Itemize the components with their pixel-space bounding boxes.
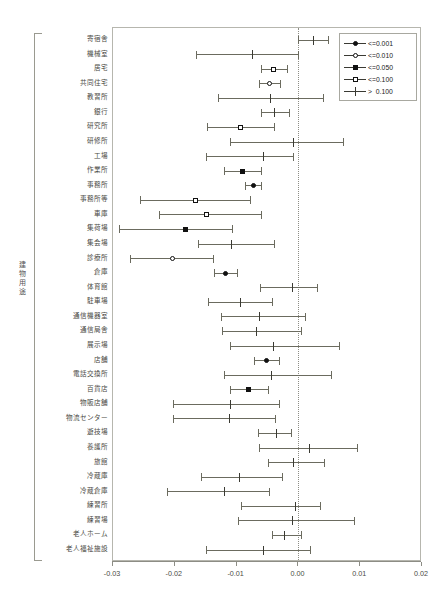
estimate-marker-filled-square <box>240 169 245 174</box>
estimate-marker-plus <box>263 546 264 555</box>
legend-entry[interactable]: <=0.050 <box>342 61 413 73</box>
category-label: 百貨店 <box>87 383 108 395</box>
estimate-marker-open-square <box>204 212 209 217</box>
category-label: 店舗 <box>94 354 108 366</box>
legend-label: > 0.100 <box>368 88 393 95</box>
forest-row <box>113 165 420 177</box>
ci-lower-cap <box>198 240 199 248</box>
estimate-marker-plus <box>252 50 253 59</box>
forest-row <box>113 180 420 192</box>
ci-upper-cap <box>279 400 280 408</box>
y-axis-label: 建物用途 <box>14 260 30 296</box>
confidence-interval-line <box>206 550 310 551</box>
category-label: 作業所 <box>87 164 108 176</box>
estimate-marker-filled-circle <box>264 358 269 363</box>
confidence-interval-line <box>167 491 269 492</box>
forest-row <box>113 107 420 119</box>
y-axis-label-char: 物 <box>14 269 30 278</box>
confidence-interval-line <box>222 331 300 332</box>
legend-entry[interactable]: <=0.010 <box>342 49 413 61</box>
category-label: 居宅 <box>94 62 108 74</box>
ci-upper-cap <box>261 211 262 219</box>
forest-row <box>113 267 420 279</box>
ci-lower-cap <box>230 342 231 350</box>
ci-upper-cap <box>287 65 288 73</box>
forest-row <box>113 529 420 541</box>
ci-lower-cap <box>230 138 231 146</box>
estimate-marker-plus <box>259 312 260 321</box>
ci-upper-cap <box>268 386 269 394</box>
legend-entry[interactable]: <=0.100 <box>342 73 413 85</box>
legend-entry[interactable]: > 0.100 <box>342 85 413 97</box>
ci-upper-cap <box>213 255 214 263</box>
x-axis: -0.03-0.02-0.010.000.010.02 <box>112 561 421 567</box>
forest-row <box>113 194 420 206</box>
legend-entry[interactable]: <=0.001 <box>342 37 413 49</box>
ci-lower-cap <box>298 36 299 44</box>
category-label: 老人ホーム <box>73 528 108 540</box>
ci-lower-cap <box>208 298 209 306</box>
ci-upper-cap <box>328 36 329 44</box>
ci-upper-cap <box>274 123 275 131</box>
forest-row <box>113 398 420 410</box>
category-label: 事務所 <box>87 179 108 191</box>
estimate-marker-plus <box>256 327 257 336</box>
estimate-marker-plus <box>284 531 285 540</box>
ci-upper-cap <box>324 459 325 467</box>
ci-upper-cap <box>275 415 276 423</box>
forest-row <box>113 442 420 454</box>
ci-lower-cap <box>261 65 262 73</box>
category-label: 物流センター <box>66 412 108 424</box>
category-label: 車庫 <box>94 208 108 220</box>
x-axis-tick-label: 0.00 <box>290 569 304 578</box>
confidence-interval-line <box>159 214 261 215</box>
ci-lower-cap <box>201 473 202 481</box>
confidence-interval-line <box>241 506 320 507</box>
estimate-marker-open-circle <box>267 81 272 86</box>
legend-symbol-plus <box>342 85 368 97</box>
ci-lower-cap <box>245 182 246 190</box>
estimate-marker-plus <box>240 298 241 307</box>
confidence-interval-line <box>258 433 291 434</box>
x-axis-tick <box>359 562 360 566</box>
forest-row <box>113 384 420 396</box>
legend-marker-plus <box>355 87 356 96</box>
confidence-interval-line <box>198 244 275 245</box>
confidence-interval-line <box>268 462 325 463</box>
ci-lower-cap <box>207 123 208 131</box>
ci-upper-cap <box>232 225 233 233</box>
estimate-marker-plus <box>263 152 264 161</box>
legend-symbol-open-square <box>342 73 368 85</box>
ci-lower-cap <box>238 517 239 525</box>
estimate-marker-filled-square <box>183 227 188 232</box>
category-label: 集荷場 <box>87 222 108 234</box>
estimate-marker-plus <box>273 342 274 351</box>
estimate-marker-plus <box>293 458 294 467</box>
ci-upper-cap <box>298 51 299 59</box>
ci-lower-cap <box>206 546 207 554</box>
category-label: 展示場 <box>87 339 108 351</box>
category-label: 遊技場 <box>87 426 108 438</box>
ci-lower-cap <box>224 167 225 175</box>
x-axis-tick <box>174 562 175 566</box>
x-axis-tick-label: -0.03 <box>104 569 120 578</box>
confidence-interval-line <box>230 142 342 143</box>
ci-upper-cap <box>305 313 306 321</box>
forest-row <box>113 253 420 265</box>
category-label: 研修所 <box>87 135 108 147</box>
ci-lower-cap <box>173 415 174 423</box>
ci-upper-cap <box>301 531 302 539</box>
ci-upper-cap <box>323 94 324 102</box>
legend-marker-filled-circle <box>353 41 358 46</box>
forest-row <box>113 355 420 367</box>
category-label: 集会場 <box>87 237 108 249</box>
ci-upper-cap <box>291 429 292 437</box>
ci-lower-cap <box>140 196 141 204</box>
ci-lower-cap <box>261 109 262 117</box>
category-label: 研究所 <box>87 120 108 132</box>
forest-row <box>113 544 420 556</box>
category-label: 倉庫 <box>94 266 108 278</box>
ci-lower-cap <box>159 211 160 219</box>
confidence-interval-line <box>230 346 339 347</box>
forest-row <box>113 136 420 148</box>
